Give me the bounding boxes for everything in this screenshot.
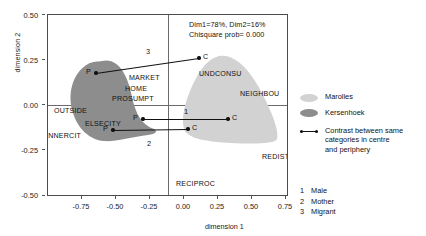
point-label-c-mother: C	[192, 123, 197, 132]
y-tick-label-2: 0.00	[8, 101, 38, 110]
y-tick-label-4: -0.50	[8, 191, 38, 200]
x-tick-mark-4	[217, 196, 218, 199]
point-label-p-male: P	[133, 113, 138, 122]
x-tick-mark-2	[149, 196, 150, 199]
point-marker-c-migrant	[197, 56, 200, 59]
x-tick-mark-6	[285, 196, 286, 199]
category-label-market: MARKET	[129, 74, 160, 82]
legend-swatch-marolles-ellipse-icon	[300, 94, 318, 102]
y-tick-label-1: 0.25	[8, 56, 38, 65]
x-tick-label-6: 0.75	[268, 202, 302, 211]
y-tick-mark-2	[42, 104, 45, 105]
category-label-redistri: REDISTRI	[262, 153, 288, 161]
category-label-reciproc: RECIPROC	[176, 180, 215, 188]
contrast-key-label-migrant: Migrant	[311, 207, 336, 218]
x-tick-mark-5	[251, 196, 252, 199]
point-marker-p-migrant	[94, 71, 97, 74]
x-tick-mark-3	[183, 196, 184, 199]
contrast-number-male: 1	[184, 107, 188, 116]
point-marker-c-mother	[186, 127, 189, 130]
legend-swatch-kersenhoek-ellipse-icon	[300, 109, 318, 117]
legend-item-contrast: Contrast between same categories in cent…	[300, 126, 426, 154]
contrast-key-item-male: 1 Male	[300, 186, 426, 197]
legend-swatch-contrast-line-icon	[300, 128, 318, 136]
contrast-key-number-migrant: 3	[300, 207, 311, 218]
plot-area: P C P C P C 3 1 2 MARKET HOME PROSUMPT O…	[47, 14, 288, 196]
category-label-undconsu: UNDCONSU	[199, 70, 242, 78]
contrast-key-list: 1 Male 2 Mother 3 Migrant	[300, 186, 426, 218]
x-tick-label-3: 0.00	[166, 202, 200, 211]
y-tick-label-3: -0.25	[8, 146, 38, 155]
y-tick-mark-1	[42, 59, 45, 60]
x-tick-label-1: -0.50	[98, 202, 132, 211]
contrast-key-item-migrant: 3 Migrant	[300, 207, 426, 218]
y-tick-mark-3	[42, 149, 45, 150]
category-label-home: HOME	[125, 85, 147, 93]
correspondence-analysis-figure: dimension 2 0.50 0.25 0.00 -0.25 -0.50	[0, 0, 426, 236]
point-marker-p-mother	[111, 128, 114, 131]
annotation-dimensions: Dim1=78%, Dim2=16%	[189, 20, 266, 29]
legend-label-kersenhoek: Kersenhoek	[325, 108, 364, 117]
legend-contrast-line-3: and periphery	[325, 145, 403, 154]
point-label-c-migrant: C	[203, 52, 208, 61]
category-label-elsecity: ELSECITY	[85, 120, 121, 128]
category-label-neighbou: NEIGHBOU	[240, 90, 279, 98]
contrast-number-mother: 2	[147, 139, 151, 148]
contrast-number-migrant: 3	[146, 47, 150, 56]
point-marker-p-male	[141, 117, 144, 120]
legend-item-kersenhoek: Kersenhoek	[300, 108, 426, 118]
legend-label-contrast: Contrast between same categories in cent…	[325, 126, 403, 154]
legend-contrast-line-1: Contrast between same	[325, 126, 403, 135]
legend-item-marolles: Marolles	[300, 92, 426, 102]
category-label-prosumpt: PROSUMPT	[112, 95, 154, 103]
x-tick-mark-1	[115, 196, 116, 199]
x-axis-title: dimension 1	[205, 222, 244, 231]
y-tick-mark-4	[42, 195, 45, 196]
legend-contrast-line-2: categories in centre	[325, 135, 403, 144]
y-axis-title: dimension 2	[13, 18, 22, 88]
legend: Marolles Kersenhoek Contrast between sam…	[300, 92, 426, 160]
y-tick-mark-0	[42, 14, 45, 15]
x-tick-label-4: 0.25	[200, 202, 234, 211]
annotation-chisquare: Chisquare prob= 0.000	[189, 30, 264, 39]
x-tick-mark-0	[81, 196, 82, 199]
contrast-key-label-mother: Mother	[311, 197, 334, 208]
category-label-innercit: INNERCIT	[47, 132, 81, 140]
point-label-c-male: C	[232, 113, 237, 122]
x-tick-label-2: -0.25	[132, 202, 166, 211]
contrast-key-number-mother: 2	[300, 197, 311, 208]
legend-label-marolles: Marolles	[325, 92, 353, 101]
contrast-line-male	[143, 119, 228, 120]
point-label-p-migrant: P	[86, 67, 91, 76]
contrast-key-number-male: 1	[300, 186, 311, 197]
y-tick-label-0: 0.50	[8, 11, 38, 20]
contrast-key-label-male: Male	[311, 186, 327, 197]
x-tick-label-0: -0.75	[64, 202, 98, 211]
point-marker-c-male	[226, 117, 229, 120]
category-label-outside: OUTSIDE	[54, 107, 87, 115]
contrast-key-item-mother: 2 Mother	[300, 197, 426, 208]
x-tick-label-5: 0.50	[234, 202, 268, 211]
